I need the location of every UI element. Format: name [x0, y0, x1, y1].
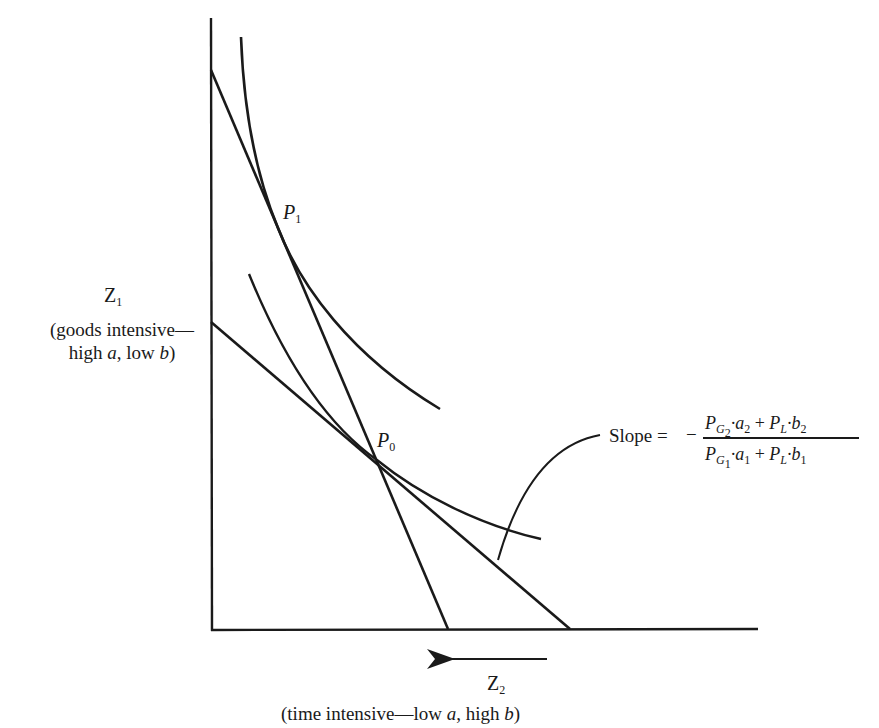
x-axis-label: Z2 — [487, 673, 505, 696]
y-axis-label: Z1 — [104, 285, 122, 308]
upper-indifference-curve — [241, 37, 440, 409]
slope-denominator: PG1·a1 + PL·b1 — [705, 444, 807, 472]
point-p1-label: P1 — [283, 202, 301, 225]
point-p0-label: P0 — [377, 430, 395, 453]
x-axis — [211, 629, 758, 630]
y-axis-description: (goods intensive— high a, low b) — [22, 318, 222, 364]
steep-budget-line — [211, 70, 448, 629]
slope-label: Slope = — [609, 426, 668, 445]
slope-sign: − — [686, 425, 697, 444]
diagram-canvas — [0, 0, 879, 728]
lower-indifference-curve — [249, 274, 541, 539]
leader-curve — [498, 435, 600, 560]
shallow-budget-line — [211, 322, 570, 629]
x-axis-description: (time intensive—low a, high b) — [281, 704, 520, 723]
fraction-bar — [703, 437, 859, 439]
